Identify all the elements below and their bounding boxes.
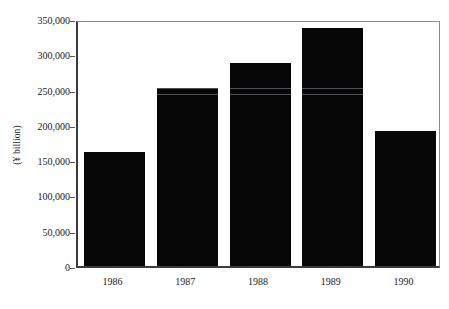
y-axis-tick-labels: 050,000100,000150,000200,000250,000300,0…	[18, 0, 70, 309]
bar-scan-line	[230, 88, 291, 89]
y-axis-tick-mark	[70, 21, 75, 22]
y-axis-tick-mark	[70, 92, 75, 93]
plot-area	[76, 21, 440, 268]
y-axis-tick-mark	[70, 56, 75, 57]
bar-scan-line	[302, 94, 363, 95]
y-axis-tick-mark	[70, 127, 75, 128]
y-axis-tick-mark	[70, 162, 75, 163]
y-axis-tick-0: 0	[18, 263, 70, 273]
bar-1986	[84, 152, 145, 266]
x-axis-tick-1987: 1987	[155, 276, 216, 287]
bar-scan-line	[230, 94, 291, 95]
bar-1990	[375, 131, 436, 266]
bar-scan-line	[157, 94, 218, 95]
y-axis-tick-300000: 300,000	[18, 51, 70, 61]
bar-scan-line	[157, 88, 218, 89]
x-axis-tick-1986: 1986	[82, 276, 143, 287]
y-axis-tick-350000: 350,000	[18, 16, 70, 26]
y-axis-tick-250000: 250,000	[18, 87, 70, 97]
bar-1987	[157, 88, 218, 266]
y-axis-tick-mark	[70, 268, 75, 269]
bar-chart-figure: (¥ billion) 050,000100,000150,000200,000…	[0, 0, 449, 309]
y-axis-tick-mark	[70, 197, 75, 198]
bar-scan-line	[302, 88, 363, 89]
bar-1989	[302, 28, 363, 266]
x-axis-tick-1988: 1988	[228, 276, 289, 287]
y-axis-tick-150000: 150,000	[18, 157, 70, 167]
x-axis-tick-1990: 1990	[373, 276, 434, 287]
y-axis-tick-mark	[70, 233, 75, 234]
bar-1988	[230, 63, 291, 266]
y-axis-tick-50000: 50,000	[18, 228, 70, 238]
y-axis-tick-200000: 200,000	[18, 122, 70, 132]
x-axis-tick-1989: 1989	[300, 276, 361, 287]
y-axis-tick-100000: 100,000	[18, 192, 70, 202]
